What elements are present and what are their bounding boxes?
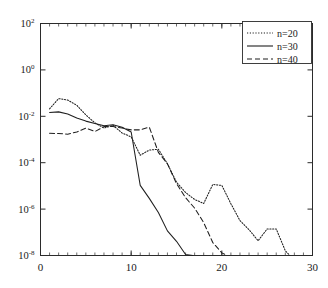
x-tick-label: 0 (38, 261, 44, 273)
x-tick-label: 20 (216, 261, 228, 273)
x-tick-label: 30 (307, 261, 319, 273)
log-line-chart: 0102030 10210010-210-410-610-8 n=20n=30n… (0, 0, 328, 288)
legend-label-n40: n=40 (277, 54, 298, 65)
chart-figure: 0102030 10210010-210-410-610-8 n=20n=30n… (0, 0, 328, 288)
legend-label-n30: n=30 (277, 41, 298, 52)
legend-label-n20: n=20 (277, 28, 298, 39)
chart-legend: n=20n=30n=40 (243, 22, 312, 65)
x-tick-label: 10 (126, 261, 138, 273)
